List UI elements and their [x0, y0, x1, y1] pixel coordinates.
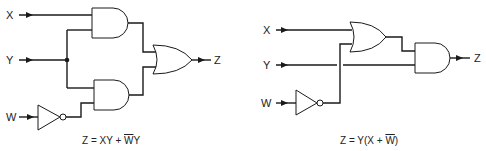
not-gate [38, 105, 60, 130]
and-gate [415, 43, 450, 73]
not-bubble [60, 114, 66, 120]
wire-and1-out [128, 23, 156, 52]
wire-and2-out [129, 67, 156, 95]
arrow-icon [281, 100, 288, 106]
left-circuit: X Y W Z Z = XY + WY [6, 8, 221, 146]
arrow-icon [281, 27, 288, 33]
logic-circuits-diagram: X Y W Z Z = XY + WY [0, 0, 486, 151]
input-label-x: X [263, 24, 271, 36]
wire-notw [323, 44, 352, 103]
input-label-w: W [261, 97, 272, 109]
arrow-icon [27, 114, 34, 120]
and-gate-1 [92, 8, 128, 38]
arrow-icon [26, 12, 33, 18]
formula-right: Z = Y(X + W) [340, 135, 398, 146]
and-gate-2 [94, 80, 129, 110]
not-gate [296, 90, 317, 115]
arrow-icon [198, 57, 205, 63]
arrow-icon [281, 62, 288, 68]
output-label-z: Z [474, 52, 481, 64]
formula-left: Z = XY + WY [82, 135, 141, 146]
wire-or-out [386, 37, 415, 51]
input-label-x: X [6, 9, 14, 21]
wire-notw [66, 103, 94, 117]
not-bubble [317, 100, 323, 106]
input-label-w: W [6, 111, 17, 123]
junction-dot [65, 58, 70, 63]
input-label-y: Y [263, 59, 271, 71]
or-gate [350, 22, 386, 52]
arrow-icon [26, 57, 33, 63]
output-label-z: Z [214, 54, 221, 66]
arrow-icon [456, 55, 463, 61]
right-circuit: X Y W Z Z = Y(X + W) [261, 22, 481, 146]
input-label-y: Y [6, 54, 14, 66]
or-gate [153, 45, 192, 74]
